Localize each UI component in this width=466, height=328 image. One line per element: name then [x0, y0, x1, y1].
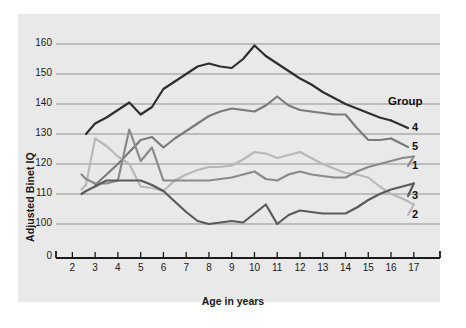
legend-leader-4	[391, 121, 408, 129]
legend-label-group-3: 3	[412, 189, 418, 201]
chart-plot-area	[0, 0, 466, 328]
y-tick-label: 120	[18, 157, 52, 168]
x-tick-label: 17	[404, 262, 424, 273]
series-lines-group	[82, 46, 414, 225]
y-tick-label: 110	[18, 187, 52, 198]
legend-title: Group	[388, 95, 423, 107]
x-tick-label: 10	[244, 262, 264, 273]
x-tick-label: 5	[131, 262, 151, 273]
legend-label-group-4: 4	[412, 121, 418, 133]
legend-label-group-2: 2	[412, 208, 418, 220]
x-tick-label: 13	[313, 262, 333, 273]
y-tick-label: 150	[18, 67, 52, 78]
x-tick-label: 15	[358, 262, 378, 273]
x-tick-label: 7	[176, 262, 196, 273]
x-axis-label: Age in years	[0, 295, 466, 307]
x-tick-label: 3	[85, 262, 105, 273]
x-tick-label: 12	[290, 262, 310, 273]
x-tick-label: 11	[267, 262, 287, 273]
x-tick-label: 2	[62, 262, 82, 273]
chart-figure: Adjusted Binet IQ Age in years 100110120…	[0, 0, 466, 328]
x-tick-label: 9	[222, 262, 242, 273]
gridlines-group	[56, 44, 440, 224]
y-tick-label: 130	[18, 127, 52, 138]
x-tick-label: 4	[108, 262, 128, 273]
x-tick-label: 6	[153, 262, 173, 273]
y-tick-label: 100	[18, 217, 52, 228]
axis-lines-group	[56, 251, 440, 258]
legend-leader-5	[391, 139, 408, 148]
x-tick-label: 16	[381, 262, 401, 273]
x-tick-label: 14	[336, 262, 356, 273]
legend-leader-lines-group	[391, 121, 414, 216]
series-line-4	[86, 46, 391, 135]
series-line-5	[95, 97, 391, 186]
legend-label-group-1: 1	[412, 159, 418, 171]
y-tick-label: 140	[18, 97, 52, 108]
y-tick-label: 160	[18, 37, 52, 48]
legend-label-group-5: 5	[412, 140, 418, 152]
y-origin-label: 0	[18, 250, 52, 261]
series-line-3	[82, 181, 414, 225]
x-tick-label: 8	[199, 262, 219, 273]
